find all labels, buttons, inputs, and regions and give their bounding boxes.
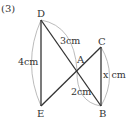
measure-da: 3cm	[60, 35, 80, 46]
segment-ec	[41, 47, 101, 106]
measure-cb: x cm	[103, 69, 126, 80]
measure-de: 4cm	[18, 56, 38, 67]
point-label-c: C	[98, 36, 106, 47]
point-label-d: D	[37, 8, 45, 19]
point-label-b: B	[99, 108, 106, 119]
geometry-diagram: (3) D E C B A 4cm 3cm 2cm x cm	[0, 0, 129, 123]
point-label-a: A	[76, 54, 85, 65]
measure-ab: 2cm	[71, 86, 91, 97]
problem-number: (3)	[1, 3, 15, 14]
point-label-e: E	[37, 108, 44, 119]
